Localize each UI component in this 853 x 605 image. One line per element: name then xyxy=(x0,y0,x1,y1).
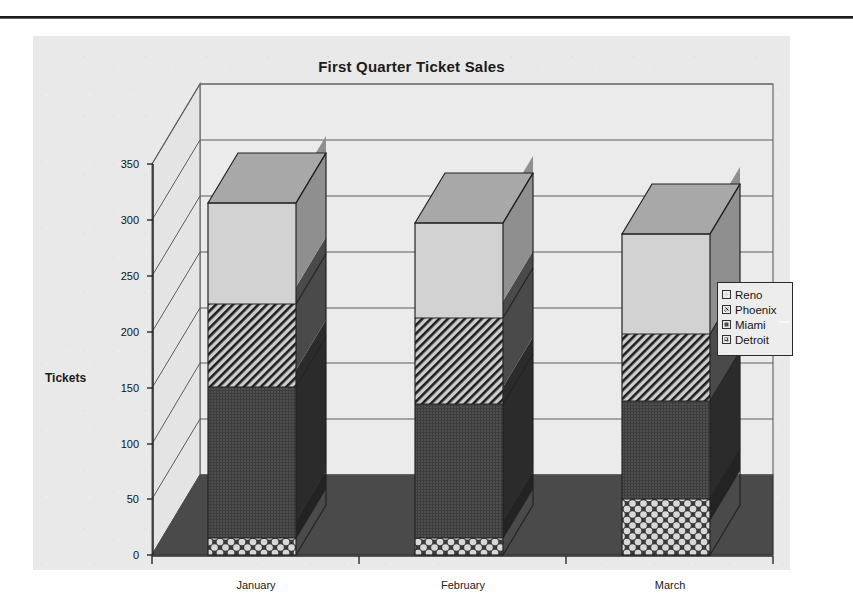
y-tick-label: 200 xyxy=(105,326,139,338)
y-tick-label: 50 xyxy=(105,493,139,505)
y-tick-label: 250 xyxy=(105,270,139,282)
screenshot-root: First Quarter Ticket Sales Tickets xyxy=(0,0,853,605)
scan-artifact xyxy=(779,321,790,323)
chart-panel: First Quarter Ticket Sales Tickets xyxy=(33,36,790,570)
x-tick-label-march: March xyxy=(655,579,686,591)
legend-item-detroit[interactable]: Detroit xyxy=(722,332,787,347)
chart-legend[interactable]: Reno Phoenix Miami Detroit xyxy=(717,282,793,356)
legend-swatch-miami-icon xyxy=(722,320,731,329)
y-tick-label: 100 xyxy=(105,438,139,450)
y-tick-label: 300 xyxy=(105,214,139,226)
legend-swatch-detroit-icon xyxy=(722,335,731,344)
y-tick-label: 150 xyxy=(105,382,139,394)
bar-march xyxy=(622,167,740,555)
legend-swatch-reno-icon xyxy=(722,290,731,299)
legend-swatch-phoenix-icon xyxy=(722,305,731,314)
legend-item-reno[interactable]: Reno xyxy=(722,287,787,302)
plot-area xyxy=(33,36,790,570)
legend-item-phoenix[interactable]: Phoenix xyxy=(722,302,787,317)
legend-label-miami: Miami xyxy=(735,319,766,331)
legend-label-detroit: Detroit xyxy=(735,334,769,346)
legend-label-phoenix: Phoenix xyxy=(735,304,777,316)
bar-february xyxy=(415,156,533,555)
x-tick-label-february: February xyxy=(441,579,485,591)
y-tick-label: 350 xyxy=(105,158,139,170)
bar-january xyxy=(208,136,326,555)
legend-label-reno: Reno xyxy=(735,289,763,301)
y-tick-label: 0 xyxy=(105,549,139,561)
legend-item-miami[interactable]: Miami xyxy=(722,317,787,332)
x-tick-label-january: January xyxy=(236,579,275,591)
page-top-rule xyxy=(0,16,853,19)
